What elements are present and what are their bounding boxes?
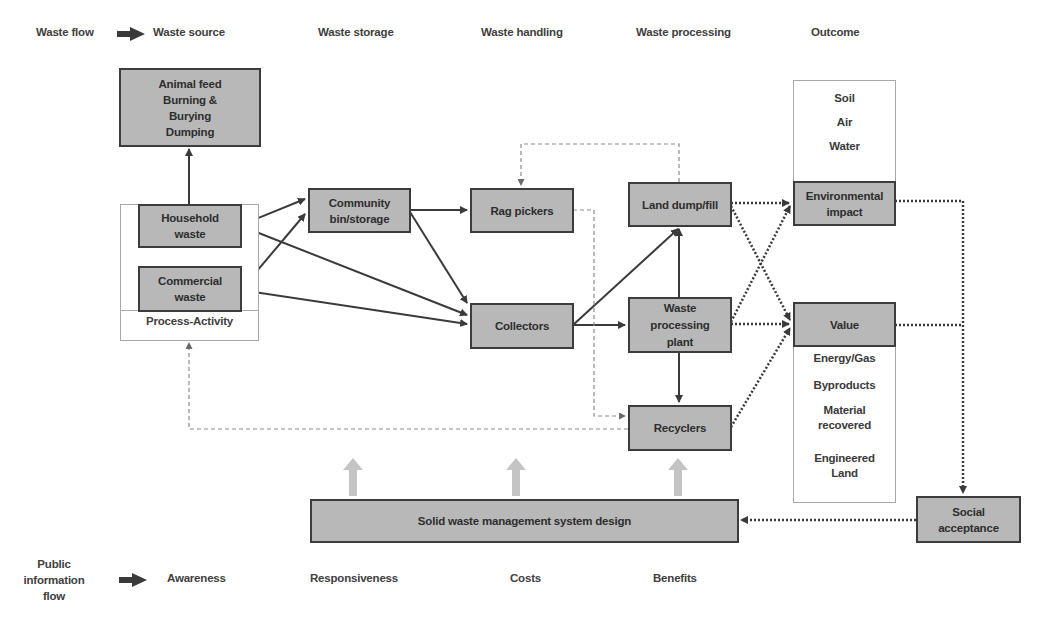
plant-line-1: Waste bbox=[664, 300, 696, 317]
arrow-household-to-collectors bbox=[241, 226, 467, 315]
commercial-line-1: Commercial bbox=[158, 273, 222, 289]
legend-waste-flow-label: Waste flow bbox=[36, 26, 94, 38]
disposal-line-4: Dumping bbox=[166, 124, 214, 140]
env-item-air: Air bbox=[837, 116, 852, 128]
arrow-bin-to-collectors bbox=[410, 212, 467, 303]
node-community-bin[interactable]: Community bin/storage bbox=[308, 188, 411, 233]
collectors-label: Collectors bbox=[495, 318, 549, 334]
waste-management-diagram: Waste flow Public information flow Waste… bbox=[0, 0, 1052, 625]
node-recyclers[interactable]: Recyclers bbox=[628, 405, 732, 451]
up-arrow-responsiveness bbox=[343, 458, 363, 496]
rag-pickers-label: Rag pickers bbox=[491, 203, 554, 219]
env-item-water: Water bbox=[829, 140, 860, 152]
info-up-arrows bbox=[343, 458, 688, 496]
header-waste-storage: Waste storage bbox=[318, 26, 394, 38]
legend-flow-line: flow bbox=[23, 588, 84, 604]
land-dump-label: Land dump/fill bbox=[642, 197, 718, 213]
header-waste-processing: Waste processing bbox=[636, 26, 731, 38]
footer-benefits: Benefits bbox=[653, 572, 697, 584]
social-line-1: Social bbox=[952, 504, 985, 520]
social-line-2: acceptance bbox=[938, 520, 999, 536]
value-item-engineered-land: Engineered Land bbox=[810, 451, 880, 481]
env-impact-line-2: impact bbox=[827, 204, 863, 220]
header-waste-handling: Waste handling bbox=[481, 26, 563, 38]
node-environmental-impact[interactable]: Environmental impact bbox=[793, 181, 896, 226]
process-activity-label: Process-Activity bbox=[121, 315, 258, 327]
footer-responsiveness: Responsiveness bbox=[310, 572, 398, 584]
arrow-commercial-to-collectors bbox=[241, 290, 467, 324]
node-rag-pickers[interactable]: Rag pickers bbox=[470, 188, 574, 233]
dashed-recyclers-to-process-activity bbox=[189, 343, 628, 429]
env-item-soil: Soil bbox=[834, 92, 854, 104]
env-impact-line-1: Environmental bbox=[806, 188, 883, 204]
recyclers-label: Recyclers bbox=[654, 420, 707, 436]
bin-line-2: bin/storage bbox=[330, 211, 390, 227]
node-social-acceptance[interactable]: Social acceptance bbox=[916, 496, 1021, 543]
node-land-dump-fill[interactable]: Land dump/fill bbox=[628, 182, 732, 227]
value-item-byproducts: Byproducts bbox=[814, 378, 876, 393]
dashed-landdump-to-ragpickers bbox=[521, 144, 679, 185]
node-household-waste[interactable]: Household waste bbox=[138, 204, 242, 248]
commercial-line-2: waste bbox=[175, 289, 206, 305]
value-item-energy-gas: Energy/Gas bbox=[814, 351, 876, 366]
swm-design-label: Solid waste management system design bbox=[418, 513, 631, 529]
node-waste-processing-plant[interactable]: Waste processing plant bbox=[628, 297, 732, 353]
legend-public-line: Public bbox=[23, 556, 84, 572]
household-line-2: waste bbox=[175, 226, 206, 242]
household-line-1: Household bbox=[161, 210, 219, 226]
header-waste-source: Waste source bbox=[153, 26, 225, 38]
disposal-line-1: Animal feed bbox=[159, 76, 222, 92]
legend-information-line: information bbox=[23, 572, 84, 588]
legend-info-flow-arrow bbox=[119, 573, 147, 587]
value-items-list: Energy/Gas Byproducts Material recovered… bbox=[795, 351, 894, 481]
disposal-line-3: Burying bbox=[169, 108, 211, 124]
footer-awareness: Awareness bbox=[167, 572, 226, 584]
dotted-recyclers-to-value bbox=[731, 328, 790, 427]
legend-public-info-label: Public information flow bbox=[23, 556, 84, 604]
header-outcome: Outcome bbox=[811, 26, 859, 38]
node-commercial-waste[interactable]: Commercial waste bbox=[138, 266, 242, 312]
dashed-ragpickers-to-recyclers bbox=[573, 210, 625, 416]
node-swm-system-design[interactable]: Solid waste management system design bbox=[310, 499, 739, 543]
node-value[interactable]: Value bbox=[793, 302, 896, 347]
up-arrow-costs bbox=[506, 458, 526, 496]
legend-waste-flow-arrow bbox=[117, 27, 145, 41]
value-label: Value bbox=[830, 317, 859, 333]
environment-media-list: Soil Air Water bbox=[793, 92, 896, 152]
plant-line-3: plant bbox=[667, 334, 693, 351]
disposal-line-2: Burning & bbox=[163, 92, 217, 108]
node-collectors[interactable]: Collectors bbox=[470, 303, 574, 349]
dotted-env-to-social bbox=[895, 201, 963, 493]
value-item-material-recovered: Material recovered bbox=[810, 403, 880, 433]
up-arrow-benefits bbox=[668, 458, 688, 496]
dotted-plant-to-env bbox=[731, 206, 790, 322]
node-informal-disposal[interactable]: Animal feed Burning & Burying Dumping bbox=[119, 68, 261, 147]
bin-line-1: Community bbox=[329, 195, 390, 211]
footer-costs: Costs bbox=[510, 572, 541, 584]
plant-line-2: processing bbox=[650, 317, 709, 334]
